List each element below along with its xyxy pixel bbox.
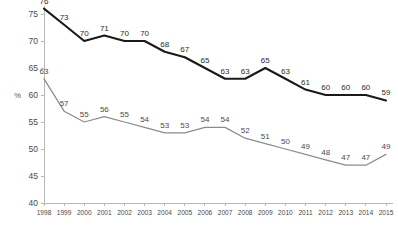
x-tick-label: 2009 xyxy=(258,209,273,216)
data-label-primary: 71 xyxy=(100,24,109,33)
data-label-primary: 63 xyxy=(241,67,250,76)
data-label-primary: 63 xyxy=(221,67,230,76)
x-tick-label: 2005 xyxy=(177,209,192,216)
data-label-primary: 67 xyxy=(180,45,189,54)
x-tick-label: 2001 xyxy=(97,209,112,216)
data-label-primary: 70 xyxy=(120,29,129,38)
data-label-secondary: 53 xyxy=(160,121,169,130)
data-label-secondary: 56 xyxy=(100,105,109,114)
x-tick-label: 2007 xyxy=(218,209,233,216)
y-tick-label: 60 xyxy=(29,90,39,100)
data-label-secondary: 47 xyxy=(341,153,350,162)
data-label-primary: 63 xyxy=(281,67,290,76)
x-tick-label: 2015 xyxy=(379,209,394,216)
data-label-secondary: 63 xyxy=(40,67,49,76)
x-tick-label: 2004 xyxy=(157,209,172,216)
data-label-secondary: 57 xyxy=(60,99,69,108)
series-secondary: 635755565554535354545251504948474749 xyxy=(40,67,391,165)
data-label-secondary: 55 xyxy=(80,110,89,119)
data-label-primary: 65 xyxy=(200,56,209,65)
y-tick-label: 45 xyxy=(29,171,39,181)
data-label-secondary: 51 xyxy=(261,132,270,141)
data-label-primary: 59 xyxy=(382,88,391,97)
data-label-primary: 65 xyxy=(261,56,270,65)
y-tick-label: 70 xyxy=(29,36,39,46)
data-label-secondary: 53 xyxy=(180,121,189,130)
data-label-secondary: 47 xyxy=(361,153,370,162)
x-tick-label: 1999 xyxy=(57,209,72,216)
line-chart: 4045505560657075%19981999200020012002200… xyxy=(0,0,398,232)
data-label-secondary: 54 xyxy=(200,115,209,124)
y-tick-label: 55 xyxy=(29,117,39,127)
y-tick-label: 50 xyxy=(29,144,39,154)
x-tick-label: 2014 xyxy=(359,209,374,216)
data-label-secondary: 54 xyxy=(140,115,149,124)
data-label-primary: 76 xyxy=(40,0,49,6)
data-label-secondary: 52 xyxy=(241,126,250,135)
chart-canvas: 4045505560657075%19981999200020012002200… xyxy=(0,0,398,232)
data-label-primary: 73 xyxy=(60,13,69,22)
data-label-secondary: 49 xyxy=(301,142,310,151)
axes: 4045505560657075%19981999200020012002200… xyxy=(14,6,394,216)
series-line-secondary xyxy=(44,79,386,165)
y-tick-label: 40 xyxy=(29,198,39,208)
x-tick-label: 2003 xyxy=(137,209,152,216)
x-tick-label: 2008 xyxy=(238,209,253,216)
data-label-secondary: 49 xyxy=(382,142,391,151)
y-axis-unit-label: % xyxy=(14,91,21,100)
x-tick-label: 2000 xyxy=(77,209,92,216)
series-primary: 767370717070686765636365636160606059 xyxy=(40,0,391,100)
x-tick-label: 2012 xyxy=(318,209,333,216)
x-tick-label: 2013 xyxy=(338,209,353,216)
y-tick-label: 65 xyxy=(29,63,39,73)
x-tick-label: 2006 xyxy=(198,209,213,216)
data-label-secondary: 50 xyxy=(281,137,290,146)
x-tick-label: 2002 xyxy=(117,209,132,216)
data-label-primary: 61 xyxy=(301,78,310,87)
x-tick-label: 2010 xyxy=(278,209,293,216)
data-label-secondary: 48 xyxy=(321,148,330,157)
data-label-secondary: 54 xyxy=(221,115,230,124)
data-label-primary: 60 xyxy=(321,83,330,92)
data-label-primary: 60 xyxy=(341,83,350,92)
y-tick-label: 75 xyxy=(29,9,39,19)
series-line-primary xyxy=(44,9,386,101)
data-label-primary: 60 xyxy=(361,83,370,92)
data-label-primary: 68 xyxy=(160,40,169,49)
data-label-primary: 70 xyxy=(140,29,149,38)
x-tick-label: 2011 xyxy=(298,209,313,216)
data-label-secondary: 55 xyxy=(120,110,129,119)
data-label-primary: 70 xyxy=(80,29,89,38)
x-tick-label: 1998 xyxy=(37,209,52,216)
